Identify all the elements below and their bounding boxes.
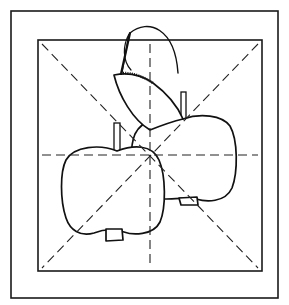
curl-arc (130, 26, 178, 73)
front-apple-bottom (106, 229, 123, 241)
front-apple-body (62, 147, 165, 234)
apple-diagram (0, 0, 289, 305)
front-apple-stem (114, 123, 120, 151)
leaf-body (114, 74, 183, 130)
diagram-canvas (0, 0, 289, 305)
back-apple-bottom (179, 197, 198, 205)
